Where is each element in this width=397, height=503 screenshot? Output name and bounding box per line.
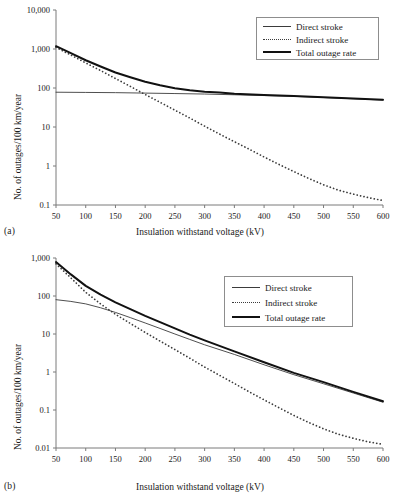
legend-row-total-outage-rate: Total outage rate — [229, 310, 348, 325]
y-tick-label: 10,000 — [8, 5, 50, 15]
x-tick-label: 250 — [160, 211, 190, 221]
x-axis-title-a: Insulation withstand voltage (kV) — [20, 227, 380, 237]
x-tick-label: 350 — [219, 211, 249, 221]
legend-label-total-outage-rate: Total outage rate — [263, 313, 325, 323]
legend-label-indirect-stroke: Indirect stroke — [294, 35, 348, 45]
x-tick-label: 550 — [338, 454, 368, 464]
y-tick-label: 0.1 — [8, 405, 50, 415]
y-axis-title-a: No. of outages/100 km/year — [13, 94, 23, 200]
legend-key-solid-thick-icon — [260, 46, 294, 59]
legend-a: Direct stroke Indirect stroke Total outa… — [256, 17, 379, 60]
legend-row-direct-stroke: Direct stroke — [229, 280, 348, 295]
x-tick-label: 200 — [130, 454, 160, 464]
legend-key-dotted-icon — [229, 295, 263, 310]
x-tick-label: 300 — [190, 454, 220, 464]
x-tick-label: 50 — [41, 211, 71, 221]
x-tick-label: 50 — [41, 454, 71, 464]
x-axis-title-b: Insulation withstand voltage (kV) — [20, 482, 380, 492]
legend-label-indirect-stroke: Indirect stroke — [263, 298, 317, 308]
chart-panel-a: No. of outages/100 km/year Insulation wi… — [0, 0, 397, 245]
x-tick-label: 250 — [160, 454, 190, 464]
x-tick-label: 150 — [100, 211, 130, 221]
y-tick-label: 0.1 — [8, 200, 50, 210]
x-tick-label: 500 — [309, 454, 339, 464]
x-tick-label: 350 — [219, 454, 249, 464]
y-tick-label: 100 — [8, 83, 50, 93]
legend-key-solid-thin-icon — [229, 280, 263, 295]
y-tick-label: 10 — [8, 122, 50, 132]
x-tick-label: 100 — [71, 211, 101, 221]
x-tick-label: 450 — [279, 211, 309, 221]
y-tick-label: 10 — [8, 329, 50, 339]
panel-label-a: (a) — [4, 226, 15, 236]
x-tick-label: 100 — [71, 454, 101, 464]
y-tick-label: 1,000 — [8, 253, 50, 263]
legend-key-solid-thin-icon — [260, 20, 294, 33]
y-tick-label: 100 — [8, 291, 50, 301]
legend-label-direct-stroke: Direct stroke — [294, 22, 343, 32]
legend-key-dotted-icon — [260, 33, 294, 46]
panel-label-b: (b) — [4, 481, 16, 491]
chart-panel-b: No. of outages/100 km/year Insulation wi… — [0, 245, 397, 503]
legend-row-indirect-stroke: Indirect stroke — [260, 33, 375, 46]
y-tick-label: 1 — [8, 161, 50, 171]
series-line — [56, 47, 383, 200]
y-tick-label: 1 — [8, 367, 50, 377]
x-tick-label: 600 — [368, 454, 397, 464]
legend-key-solid-thick-icon — [229, 310, 263, 325]
legend-row-indirect-stroke: Indirect stroke — [229, 295, 348, 310]
x-tick-label: 200 — [130, 211, 160, 221]
x-tick-label: 500 — [309, 211, 339, 221]
x-tick-label: 600 — [368, 211, 397, 221]
legend-row-direct-stroke: Direct stroke — [260, 20, 375, 33]
x-tick-label: 300 — [190, 211, 220, 221]
x-tick-label: 400 — [249, 211, 279, 221]
legend-b: Direct stroke Indirect stroke Total outa… — [224, 276, 353, 327]
x-tick-label: 450 — [279, 454, 309, 464]
legend-label-total-outage-rate: Total outage rate — [294, 48, 356, 58]
legend-label-direct-stroke: Direct stroke — [263, 283, 312, 293]
y-tick-label: 0.01 — [8, 443, 50, 453]
x-tick-label: 400 — [249, 454, 279, 464]
y-axis-title-b: No. of outages/100 km/year — [13, 344, 23, 450]
x-tick-label: 550 — [338, 211, 368, 221]
legend-row-total-outage-rate: Total outage rate — [260, 46, 375, 59]
y-tick-label: 1,000 — [8, 44, 50, 54]
x-tick-label: 150 — [100, 454, 130, 464]
